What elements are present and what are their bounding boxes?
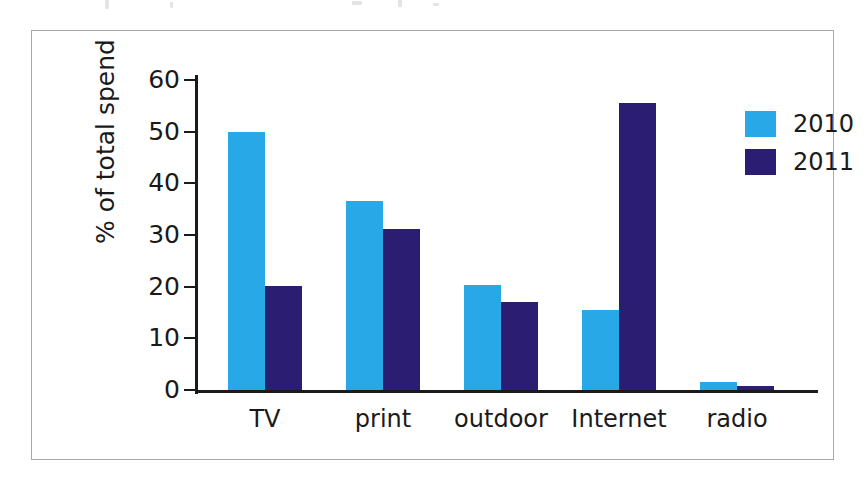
bar-print-2011[interactable]	[383, 229, 420, 390]
legend-swatch-2011	[745, 149, 776, 175]
legend-label-2010: 2010	[793, 112, 854, 136]
bar-TV-2010[interactable]	[228, 132, 265, 390]
y-axis-tick	[184, 79, 196, 81]
y-axis-tick	[184, 131, 196, 133]
x-axis-label-TV: TV	[203, 407, 327, 431]
chart-figure-frame: % of total spend 0102030405060 2010 2011…	[31, 30, 834, 460]
bar-group	[228, 80, 302, 390]
legend-item[interactable]: 2010	[745, 105, 854, 143]
y-axis-tick	[184, 389, 196, 391]
bar-radio-2011[interactable]	[737, 386, 774, 390]
bar-group	[582, 80, 656, 390]
y-axis-tick-label: 0	[134, 377, 180, 402]
plot-area	[196, 80, 816, 390]
bar-outdoor-2010[interactable]	[464, 285, 501, 390]
y-axis-tick	[184, 337, 196, 339]
y-axis-tick-label: 10	[134, 325, 180, 350]
y-axis-tick-label: 40	[134, 170, 180, 195]
y-axis-tick-label: 60	[134, 67, 180, 92]
x-axis-label-Internet: Internet	[557, 407, 681, 431]
bar-Internet-2010[interactable]	[582, 310, 619, 390]
y-axis-tick-label: 50	[134, 119, 180, 144]
y-axis-tick-labels: 0102030405060	[118, 31, 180, 461]
x-axis-label-outdoor: outdoor	[439, 407, 563, 431]
y-axis-title: % of total spend	[91, 17, 120, 267]
bar-print-2010[interactable]	[346, 201, 383, 390]
bar-group	[346, 80, 420, 390]
y-axis-tick	[184, 234, 196, 236]
y-axis-tick-label: 20	[134, 274, 180, 299]
x-axis-line	[195, 390, 818, 393]
bar-outdoor-2011[interactable]	[501, 302, 538, 390]
scan-artifacts	[0, 0, 867, 26]
y-axis-tick-label: 30	[134, 222, 180, 247]
chart-legend: 2010 2011	[745, 105, 854, 181]
bar-Internet-2011[interactable]	[619, 103, 656, 390]
legend-swatch-2010	[745, 111, 776, 137]
bar-group	[464, 80, 538, 390]
bar-TV-2011[interactable]	[265, 286, 302, 390]
y-axis-tick	[184, 286, 196, 288]
legend-label-2011: 2011	[793, 150, 854, 174]
bar-radio-2010[interactable]	[700, 382, 737, 390]
y-axis-tick	[184, 182, 196, 184]
x-axis-label-print: print	[321, 407, 445, 431]
x-axis-label-radio: radio	[675, 407, 799, 431]
legend-item[interactable]: 2011	[745, 143, 854, 181]
